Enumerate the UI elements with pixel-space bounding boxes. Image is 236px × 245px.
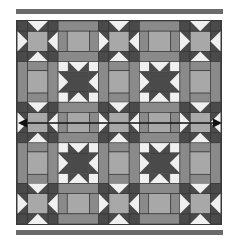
bottom-border-strip [16, 230, 223, 235]
width-arrow-icon [18, 117, 222, 129]
top-border-strip [16, 9, 223, 14]
